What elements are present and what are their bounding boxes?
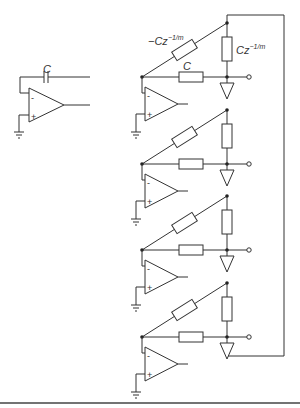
svg-text:Cz−1/m: Cz−1/m (236, 43, 265, 56)
svg-text:-: - (147, 351, 150, 361)
ground-icon (131, 219, 141, 225)
capacitor-element (179, 332, 203, 342)
svg-text:+: + (31, 112, 36, 122)
vertical-element (222, 210, 232, 234)
delay-element (172, 299, 198, 320)
circuit-diagram: C - + −Cz−1/m Cz−1/m C -+-+-+-+ (0, 0, 300, 408)
svg-text:−Cz−1/m: −Cz−1/m (148, 34, 184, 47)
capacitor-element (179, 245, 203, 255)
ground-icon (14, 132, 24, 138)
buffer-symbol (220, 170, 234, 186)
delay-element (172, 39, 198, 60)
output-terminal (247, 335, 251, 339)
cascade-circuit: −Cz−1/m Cz−1/m C -+-+-+-+ (131, 15, 284, 398)
capacitor-element (179, 72, 203, 82)
stage-4: -+ (131, 281, 251, 398)
integrator-circuit: C - + (14, 63, 90, 138)
delay-element (172, 126, 198, 147)
vertical-element (222, 124, 232, 148)
vertical-element (222, 297, 232, 321)
svg-text:+: + (147, 283, 152, 293)
stage-3: -+ (131, 194, 251, 311)
svg-text:+: + (147, 197, 152, 207)
ground-icon (131, 392, 141, 398)
capacitor-element (179, 159, 203, 169)
output-terminal (247, 75, 251, 79)
stage-2: -+ (131, 108, 251, 225)
svg-text:+: + (147, 110, 152, 120)
svg-text:C: C (183, 60, 191, 72)
output-terminal (247, 248, 251, 252)
buffer-symbol (220, 343, 234, 359)
buffer-symbol (220, 83, 234, 99)
output-terminal (247, 162, 251, 166)
feedback-wire (227, 15, 284, 356)
svg-text:-: - (147, 91, 150, 101)
svg-text:-: - (31, 93, 34, 103)
svg-text:-: - (147, 178, 150, 188)
svg-text:+: + (147, 370, 152, 380)
buffer-symbol (220, 256, 234, 272)
ground-icon (131, 305, 141, 311)
ground-icon (131, 132, 141, 138)
svg-text:-: - (147, 264, 150, 274)
delay-element (172, 212, 198, 233)
vertical-element (222, 37, 232, 61)
